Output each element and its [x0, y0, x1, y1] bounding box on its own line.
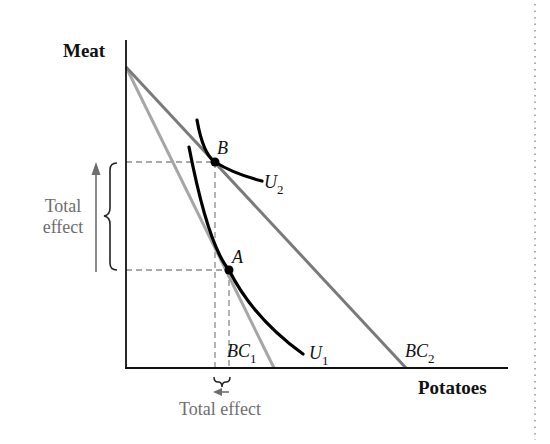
- bc2-label: BC2: [405, 341, 435, 366]
- vertical-effect-line2: effect: [43, 217, 84, 237]
- vertical-effect-line1: Total: [45, 196, 82, 216]
- u2-label: U2: [264, 172, 284, 197]
- horizontal-total-effect: Total effect: [179, 377, 261, 419]
- indifference-curve-u1: [189, 147, 303, 354]
- up-arrow-icon: [92, 162, 101, 175]
- diagram-canvas: Meat Potatoes B A U2 U1 BC1 BC2 Total ef…: [0, 0, 550, 444]
- u1-label: U1: [309, 343, 329, 368]
- point-b-label: B: [217, 138, 228, 158]
- left-arrow-icon: [213, 388, 222, 396]
- point-b-marker: [211, 158, 220, 167]
- brace-left-icon: [104, 163, 117, 270]
- point-a-label: A: [231, 247, 244, 267]
- horizontal-effect-label: Total effect: [179, 399, 261, 419]
- guide-lines: [126, 162, 229, 368]
- budget-line-bc1: [126, 67, 274, 368]
- indifference-curve-u2: [197, 120, 262, 181]
- x-axis-label: Potatoes: [418, 377, 487, 398]
- vertical-total-effect: Total effect: [43, 162, 117, 272]
- brace-down-icon: [214, 377, 230, 387]
- y-axis-label: Meat: [63, 40, 106, 61]
- bc1-label: BC1: [227, 341, 257, 366]
